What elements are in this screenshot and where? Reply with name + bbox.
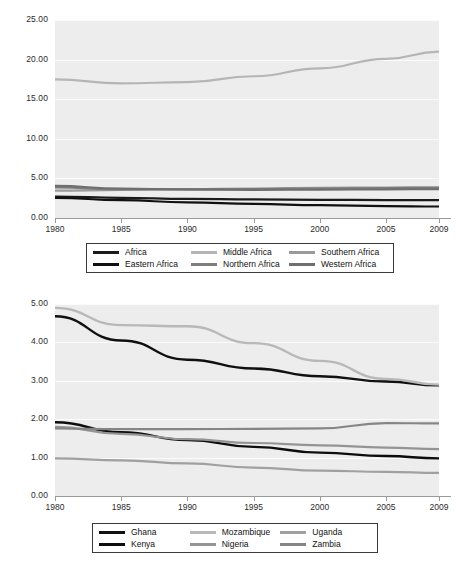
legend-color-swatch: [190, 531, 216, 534]
legend-item-label: Nigeria: [222, 539, 249, 549]
legend-item[interactable]: Nigeria: [190, 539, 281, 549]
legend-item[interactable]: Western Africa: [289, 259, 387, 269]
legend-color-swatch: [93, 251, 119, 254]
legend-item[interactable]: Kenya: [99, 539, 190, 549]
legend-color-swatch: [280, 531, 306, 534]
legend-item[interactable]: Mozambique: [190, 527, 281, 537]
legend-item-label: Mozambique: [222, 527, 271, 537]
legend-grid: GhanaMozambiqueUgandaKenyaNigeriaZambia: [99, 527, 371, 549]
legend-item-label: Zambia: [312, 539, 340, 549]
legend-color-swatch: [93, 263, 119, 266]
legend-item-label: Eastern Africa: [125, 259, 178, 269]
series-line: [55, 52, 439, 84]
series-line: [55, 308, 439, 385]
legend-color-swatch: [99, 543, 125, 546]
legend-item-label: Southern Africa: [321, 247, 379, 257]
legend-item-label: Africa: [125, 247, 147, 257]
legend-item-label: Ghana: [131, 527, 157, 537]
series-line: [55, 458, 439, 473]
legend-item[interactable]: Eastern Africa: [93, 259, 191, 269]
legend-item[interactable]: Southern Africa: [289, 247, 387, 257]
legend-color-swatch: [190, 543, 216, 546]
legend-color-swatch: [289, 251, 315, 254]
legend-item[interactable]: Africa: [93, 247, 191, 257]
legend-item[interactable]: Middle Africa: [191, 247, 289, 257]
legend-item-label: Uganda: [312, 527, 342, 537]
chart-legend: GhanaMozambiqueUgandaKenyaNigeriaZambia: [92, 523, 378, 553]
series-line: [55, 423, 439, 429]
series-line: [55, 422, 439, 458]
legend-item-label: Middle Africa: [223, 247, 272, 257]
series-line: [55, 316, 439, 385]
chart-legend: AfricaMiddle AfricaSouthern AfricaEaster…: [86, 243, 394, 273]
legend-color-swatch: [99, 531, 125, 534]
legend-color-swatch: [191, 251, 217, 254]
legend-color-swatch: [280, 543, 306, 546]
legend-grid: AfricaMiddle AfricaSouthern AfricaEaster…: [93, 247, 387, 269]
legend-color-swatch: [289, 263, 315, 266]
legend-item-label: Kenya: [131, 539, 155, 549]
legend-color-swatch: [191, 263, 217, 266]
legend-item-label: Western Africa: [321, 259, 376, 269]
legend-item[interactable]: Zambia: [280, 539, 371, 549]
legend-item-label: Northern Africa: [223, 259, 280, 269]
legend-item[interactable]: Uganda: [280, 527, 371, 537]
legend-item[interactable]: Northern Africa: [191, 259, 289, 269]
legend-item[interactable]: Ghana: [99, 527, 190, 537]
